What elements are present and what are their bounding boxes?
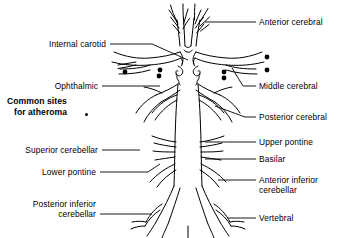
right-lower-pontine-branch — [201, 151, 223, 152]
label-upper-pontine: Upper pontine — [259, 137, 313, 147]
label-lower-pontine: Lower pontine — [42, 167, 96, 177]
left-posterior-communicating-artery — [176, 66, 183, 76]
atheroma-dot-left-distal-mca — [123, 70, 128, 75]
left-superior-cerebellar-artery — [152, 95, 177, 113]
label-superior-cerebellar: Superior cerebellar — [25, 145, 98, 155]
atheroma-dot-left-carotid-bifurcation — [157, 74, 162, 79]
right-superior-cerebellar-artery — [199, 95, 224, 113]
left-upper-pontine-branch — [152, 136, 176, 142]
label-internal-carotid: Internal carotid — [49, 39, 106, 49]
right-upper-pontine-branch — [200, 136, 224, 142]
right-pica — [214, 204, 230, 222]
leader-middle-cerebral — [232, 68, 256, 86]
atheroma-dot-right-carotid-bifurcation — [222, 76, 227, 81]
anterior-communicating-artery — [185, 46, 191, 48]
atheroma-dot-right-distal-mca-upper — [265, 55, 270, 60]
atheroma-dot-right-distal-mca-lower — [265, 68, 270, 73]
left-pica — [146, 204, 162, 222]
label-basilar: Basilar — [259, 154, 285, 164]
label-posterior-cerebral: Posterior cerebral — [259, 112, 327, 122]
label-ophthalmic: Ophthalmic — [55, 81, 98, 91]
right-internal-carotid-upper — [196, 52, 262, 58]
right-vertebral-artery-outer — [202, 186, 229, 236]
left-internal-carotid-upper — [114, 52, 180, 58]
label-anterior-inferior-cerebellar-line1: Anterior inferior — [259, 175, 318, 185]
artery-diagram-figure: Anterior cerebral Middle cerebral Poster… — [0, 0, 363, 238]
left-vertebral-artery-outer — [147, 186, 174, 236]
right-posterior-communicating-artery — [193, 66, 200, 76]
key-line-2: for atheroma — [14, 107, 67, 118]
label-anterior-cerebral: Anterior cerebral — [259, 17, 323, 27]
left-vertebral-artery-inner — [162, 188, 180, 238]
atheroma-dot-left-mca-origin — [158, 68, 163, 73]
left-lower-pontine-branch — [153, 151, 175, 152]
label-middle-cerebral: Middle cerebral — [259, 81, 318, 91]
atheroma-dot-right-mca-origin — [222, 70, 227, 75]
label-anterior-inferior-cerebellar-line2: cerebellar — [259, 185, 297, 195]
label-posterior-inferior-cerebellar-line2: cerebellar — [58, 209, 96, 219]
label-posterior-inferior-cerebellar-line1: Posterior inferior — [33, 199, 96, 209]
right-internal-carotid-lower — [195, 58, 264, 65]
leader-lower-pontine — [100, 164, 160, 172]
leader-lines — [100, 22, 256, 218]
right-vertebral-artery-inner — [196, 188, 214, 238]
key-line-1: Common sites — [7, 96, 67, 107]
right-anterior-cerebral-trunk — [191, 18, 194, 46]
label-vertebral: Vertebral — [259, 213, 293, 223]
